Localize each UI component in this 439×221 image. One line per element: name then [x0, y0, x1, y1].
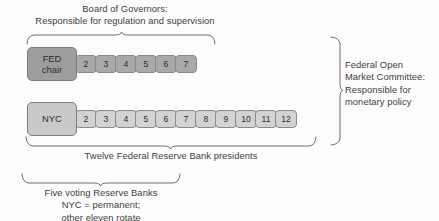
- fed-structure-diagram: Board of Governors: Responsible for regu…: [0, 0, 439, 221]
- president-box-4[interactable]: 4: [115, 110, 137, 128]
- president-box-7[interactable]: 7: [175, 110, 197, 128]
- board-of-governors-row: FED chair 2 3 4 5 6 7: [27, 47, 197, 81]
- president-box-2[interactable]: 2: [75, 110, 97, 128]
- president-box-9[interactable]: 9: [215, 110, 237, 128]
- fed-chair-box[interactable]: FED chair: [27, 47, 77, 81]
- president-box-3[interactable]: 3: [95, 110, 117, 128]
- fed-chair-label-line1: FED: [43, 53, 62, 65]
- president-box-5[interactable]: 5: [135, 110, 157, 128]
- brace-five-voting: [21, 173, 181, 185]
- twelve-presidents-caption: Twelve Federal Reserve Bank presidents: [25, 150, 317, 162]
- president-box-8[interactable]: 8: [195, 110, 217, 128]
- president-box-6[interactable]: 6: [155, 110, 177, 128]
- brace-twelve-presidents: [25, 136, 317, 148]
- fed-chair-label-line2: chair: [42, 64, 62, 76]
- president-box-12[interactable]: 12: [275, 110, 297, 128]
- brace-fomc: [330, 36, 342, 146]
- nyc-box[interactable]: NYC: [27, 102, 77, 136]
- nyc-label: NYC: [42, 113, 62, 125]
- governor-box-6[interactable]: 6: [155, 55, 177, 73]
- five-voting-caption: Five voting Reserve Banks NYC = permanen…: [21, 187, 181, 221]
- governor-box-5[interactable]: 5: [135, 55, 157, 73]
- governor-box-4[interactable]: 4: [115, 55, 137, 73]
- board-of-governors-caption: Board of Governors: Responsible for regu…: [0, 3, 250, 28]
- governor-box-2[interactable]: 2: [75, 55, 97, 73]
- governor-box-7[interactable]: 7: [175, 55, 197, 73]
- fomc-caption: Federal Open Market Committee: Responsib…: [345, 59, 439, 109]
- reserve-bank-presidents-row: NYC 2 3 4 5 6 7 8 9 10 11 12: [27, 102, 297, 136]
- brace-board-of-governors: [26, 33, 216, 45]
- president-box-10[interactable]: 10: [235, 110, 257, 128]
- president-box-11[interactable]: 11: [255, 110, 277, 128]
- governor-box-3[interactable]: 3: [95, 55, 117, 73]
